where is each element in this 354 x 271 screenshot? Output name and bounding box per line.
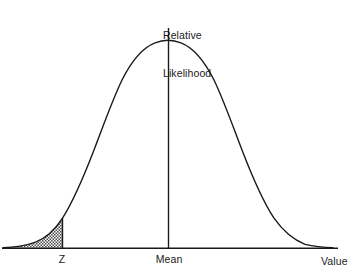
- y-axis-label-line1: Relative: [163, 29, 211, 42]
- y-axis-label: Relative Likelihood: [163, 4, 211, 104]
- y-axis-label-line2: Likelihood: [163, 67, 211, 80]
- z-tick-label: Z: [49, 253, 75, 266]
- normal-distribution-figure: Relative Likelihood Z Mean Value: [0, 0, 354, 271]
- x-axis-label: Value: [321, 255, 348, 268]
- mean-tick-label: Mean: [145, 253, 193, 266]
